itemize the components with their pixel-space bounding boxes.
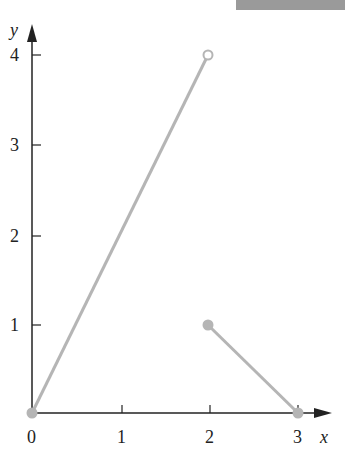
chart: 0 1 2 3 1 2 3 4 y x [0, 0, 345, 460]
segment-2-start-closed-dot [203, 320, 214, 331]
y-axis-label: y [8, 20, 18, 40]
x-tick-label-2: 2 [205, 427, 214, 447]
y-tick-label-2: 2 [10, 226, 19, 246]
segment-1-line [32, 59, 206, 413]
segment-2-end-closed-dot [293, 408, 304, 419]
x-tick-label-0: 0 [27, 427, 36, 447]
x-axis-arrow-icon [314, 408, 332, 418]
segment-1-end-open-dot [204, 51, 213, 60]
x-tick-label-1: 1 [117, 427, 126, 447]
y-tick-label-1: 1 [10, 315, 19, 335]
x-tick-label-3: 3 [293, 427, 302, 447]
segment-2-line [208, 325, 298, 413]
x-axis-label: x [319, 427, 328, 447]
segment-1-start-closed-dot [27, 408, 38, 419]
y-tick-label-4: 4 [10, 45, 19, 65]
y-axis-arrow-icon [27, 24, 37, 42]
y-tick-label-3: 3 [10, 135, 19, 155]
